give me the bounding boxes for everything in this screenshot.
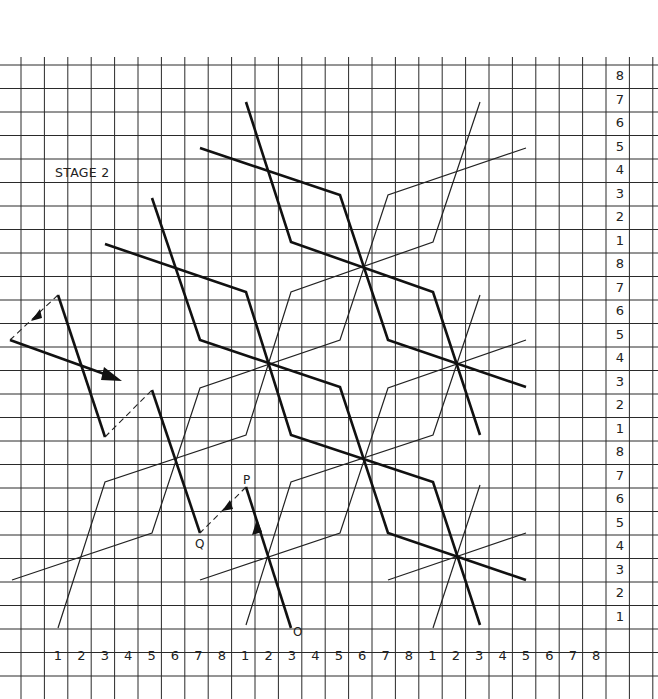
row-label: 2 xyxy=(616,209,624,224)
column-label: 5 xyxy=(522,648,530,663)
row-label: 7 xyxy=(616,280,624,295)
row-label: 3 xyxy=(616,186,624,201)
point-label-q: Q xyxy=(195,537,204,551)
column-label: 8 xyxy=(592,648,600,663)
column-label: 8 xyxy=(218,648,226,663)
point-label-p: P xyxy=(243,473,250,487)
row-label: 4 xyxy=(616,350,624,365)
column-label: 7 xyxy=(381,648,389,663)
row-label: 7 xyxy=(616,92,624,107)
row-label: 8 xyxy=(616,444,624,459)
row-label: 3 xyxy=(616,562,624,577)
column-label: 3 xyxy=(475,648,483,663)
row-label: 8 xyxy=(616,68,624,83)
row-number-labels: 876543218765432187654321 xyxy=(616,68,624,624)
column-number-labels: 123456781234567812345678 xyxy=(54,648,600,663)
arrowhead-main-right xyxy=(101,367,122,381)
row-label: 7 xyxy=(616,468,624,483)
row-label: 6 xyxy=(616,115,624,130)
row-label: 2 xyxy=(616,397,624,412)
column-label: 2 xyxy=(452,648,460,663)
column-label: 6 xyxy=(358,648,366,663)
column-label: 1 xyxy=(241,648,249,663)
column-label: 2 xyxy=(77,648,85,663)
column-label: 6 xyxy=(171,648,179,663)
column-label: 1 xyxy=(54,648,62,663)
column-label: 7 xyxy=(194,648,202,663)
row-label: 1 xyxy=(616,609,624,624)
thick-line-layer xyxy=(10,102,526,628)
row-label: 1 xyxy=(616,421,624,436)
column-label: 5 xyxy=(147,648,155,663)
row-label: 5 xyxy=(616,139,624,154)
arrowhead-layer xyxy=(31,309,262,535)
column-label: 3 xyxy=(101,648,109,663)
row-label: 4 xyxy=(616,162,624,177)
row-label: 5 xyxy=(616,327,624,342)
dashed-path-mid-left xyxy=(105,390,152,437)
graph-paper-grid xyxy=(0,57,658,699)
row-label: 6 xyxy=(616,303,624,318)
row-label: 1 xyxy=(616,233,624,248)
thick-path-b xyxy=(200,148,526,387)
column-label: 4 xyxy=(498,648,506,663)
column-label: 1 xyxy=(428,648,436,663)
row-label: 3 xyxy=(616,374,624,389)
stage-title: STAGE 2 xyxy=(55,165,110,180)
row-label: 6 xyxy=(616,491,624,506)
column-label: 6 xyxy=(545,648,553,663)
column-label: 7 xyxy=(569,648,577,663)
row-label: 4 xyxy=(616,538,624,553)
column-label: 3 xyxy=(288,648,296,663)
column-label: 4 xyxy=(124,648,132,663)
arrowhead-dashed-top-left xyxy=(31,309,42,321)
row-label: 5 xyxy=(616,515,624,530)
column-label: 4 xyxy=(311,648,319,663)
row-label: 2 xyxy=(616,585,624,600)
thick-path-op xyxy=(246,487,291,628)
dashed-line-layer xyxy=(10,295,246,533)
column-label: 8 xyxy=(405,648,413,663)
row-label: 8 xyxy=(616,256,624,271)
diagram-canvas: 123456781234567812345678 876543218765432… xyxy=(0,0,658,699)
point-label-o: O xyxy=(293,625,302,639)
column-label: 5 xyxy=(335,648,343,663)
column-label: 2 xyxy=(264,648,272,663)
